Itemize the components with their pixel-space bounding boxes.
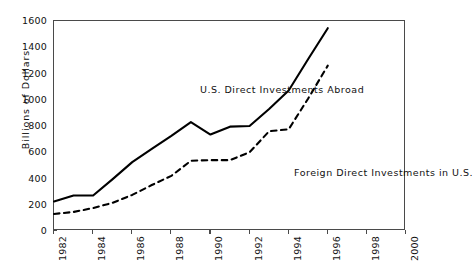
y-tick-label-0: 0 — [41, 225, 47, 236]
plot-area: U.S. Direct Investments Abroad Foreign D… — [53, 20, 405, 230]
series-canvas — [54, 21, 406, 231]
x-tick-mark-1992 — [249, 230, 250, 234]
y-tick-label-200: 200 — [28, 198, 47, 209]
y-tick-label-400: 400 — [28, 172, 47, 183]
x-tick-mark-1982 — [53, 230, 54, 234]
x-tick-label-1994: 1994 — [292, 236, 303, 261]
x-tick-label-1988: 1988 — [174, 236, 185, 261]
x-tick-mark-1994 — [288, 230, 289, 234]
y-tick-label-1600: 1600 — [22, 15, 47, 26]
x-tick-mark-1998 — [366, 230, 367, 234]
x-tick-mark-1990 — [209, 230, 210, 234]
y-tick-label-600: 600 — [28, 146, 47, 157]
x-tick-label-1996: 1996 — [331, 236, 342, 261]
y-tick-label-800: 800 — [28, 120, 47, 131]
annotation-us-direct-investments-abroad: U.S. Direct Investments Abroad — [200, 84, 364, 95]
x-tick-mark-1986 — [131, 230, 132, 234]
x-axis-tick-marks — [53, 230, 405, 235]
y-axis-title: Billions of Dollars — [20, 26, 31, 174]
annotation-foreign-direct-investments-in-us: Foreign Direct Investments in U.S. — [294, 167, 473, 178]
x-tick-label-1984: 1984 — [96, 236, 107, 261]
x-tick-mark-1988 — [170, 230, 171, 234]
x-axis-tick-labels: 1982198419861988199019921994199619982000 — [53, 236, 405, 276]
x-tick-label-1986: 1986 — [135, 236, 146, 261]
x-tick-label-1982: 1982 — [57, 236, 68, 261]
x-tick-label-2000: 2000 — [409, 236, 420, 261]
x-tick-mark-2000 — [405, 230, 406, 234]
x-tick-label-1998: 1998 — [370, 236, 381, 261]
x-tick-mark-1984 — [92, 230, 93, 234]
series-line-us-abroad — [54, 28, 328, 201]
x-tick-label-1990: 1990 — [213, 236, 224, 261]
x-tick-mark-1996 — [327, 230, 328, 234]
x-tick-label-1992: 1992 — [253, 236, 264, 261]
